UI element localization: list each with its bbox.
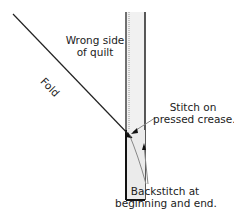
wrong-side-label: Wrong side of quilt bbox=[60, 34, 130, 58]
fold-line bbox=[13, 14, 132, 138]
wrong-side-line1: Wrong side bbox=[60, 34, 130, 46]
backstitch-line2: beginning and end. bbox=[115, 197, 215, 209]
wrong-side-line2: of quilt bbox=[60, 46, 130, 58]
stitch-line1: Stitch on bbox=[153, 101, 233, 113]
stitch-label: Stitch on pressed crease. bbox=[153, 101, 233, 125]
backstitch-label: Backstitch at beginning and end. bbox=[115, 185, 215, 209]
backstitch-line1: Backstitch at bbox=[115, 185, 215, 197]
stitch-line2: pressed crease. bbox=[153, 113, 233, 125]
